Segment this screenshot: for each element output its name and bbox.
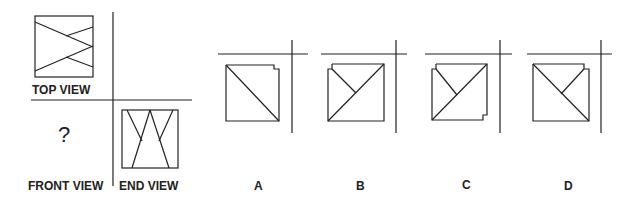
question-mark: ? (58, 122, 70, 148)
option-a-label[interactable]: A (254, 179, 263, 193)
end-view-label: END VIEW (119, 179, 178, 193)
end-view-drawing (122, 110, 178, 168)
option-c-drawing[interactable] (425, 40, 512, 133)
orthographic-diagram (0, 0, 644, 202)
top-view-drawing (35, 16, 93, 77)
option-b-label[interactable]: B (356, 179, 365, 193)
option-c-label[interactable]: C (462, 178, 471, 192)
option-d-label[interactable]: D (564, 179, 573, 193)
option-b-drawing[interactable] (321, 40, 407, 133)
top-view-label: TOP VIEW (32, 83, 90, 97)
option-d-drawing[interactable] (527, 40, 612, 133)
option-a-drawing[interactable] (218, 40, 308, 133)
front-view-label: FRONT VIEW (28, 179, 103, 193)
